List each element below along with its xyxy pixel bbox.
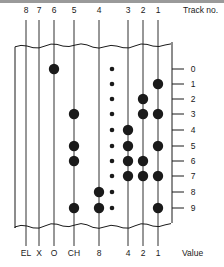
track-number-5: 5 [72,5,77,15]
row-label-9: 9 [191,203,196,213]
track-number-3: 3 [126,5,131,15]
sprocket-hole [110,190,115,195]
track-value-4: 8 [97,248,102,258]
punch-hole-row5-track1 [153,141,163,151]
track-value-7: X [36,248,42,258]
tape-top-edge [15,44,171,48]
row-label-2: 2 [191,94,196,104]
sprocket-hole [110,128,115,133]
row-label-3: 3 [191,109,196,119]
track-number-4: 4 [97,5,102,15]
track-number-2: 2 [141,5,146,15]
track-number-8: 8 [24,5,29,15]
track-no-label: Track no. [183,5,218,15]
punch-hole-row9-track1 [153,203,163,213]
track-value-1: 1 [156,248,161,258]
row-label-4: 4 [191,125,196,135]
punch-hole-row3-track5 [69,109,79,119]
track-value-6: O [51,248,58,258]
tape-bottom-edge [15,224,171,229]
punch-hole-row6-track2 [138,156,148,166]
track-value-8: EL [21,248,32,258]
row-label-6: 6 [191,156,196,166]
sprocket-hole [110,97,115,102]
punch-hole-row8-track4 [94,187,104,197]
sprocket-hole [110,174,115,179]
row-label-5: 5 [191,141,196,151]
sprocket-hole [110,159,115,164]
punch-hole-row5-track5 [69,141,79,151]
punch-hole-row6-track3 [123,156,133,166]
punch-hole-row7-track3 [123,171,133,181]
punch-hole-row5-track3 [123,141,133,151]
sprocket-hole [110,67,115,72]
punch-hole-row7-track1 [153,171,163,181]
punch-hole-row0-track6 [49,64,59,74]
punch-hole-row3-track1 [153,109,163,119]
punch-hole-row2-track2 [138,94,148,104]
sprocket-hole [110,144,115,149]
punch-hole-row3-track2 [138,109,148,119]
row-scale [172,69,184,208]
sprocket-hole [110,206,115,211]
sprocket-hole [110,112,115,117]
track-value-5: CH [68,248,80,258]
row-label-0: 0 [191,64,196,74]
sprocket-hole [110,82,115,87]
labels: Track no. Value 8EL7X6O5CH48342211012345… [21,5,218,258]
track-value-3: 4 [126,248,131,258]
row-label-7: 7 [191,171,196,181]
row-label-8: 8 [191,187,196,197]
punch-hole-row1-track1 [153,79,163,89]
punch-hole-row4-track3 [123,125,133,135]
value-label: Value [182,248,203,258]
track-number-1: 1 [156,5,161,15]
track-lines [26,20,158,246]
track-number-6: 6 [52,5,57,15]
track-value-2: 2 [141,248,146,258]
punch-holes [49,64,163,213]
track-number-7: 7 [37,5,42,15]
punch-hole-row7-track2 [138,171,148,181]
row-label-1: 1 [191,79,196,89]
punch-hole-row9-track5 [69,203,79,213]
punch-hole-row9-track4 [94,203,104,213]
paper-tape-diagram: Track no. Value 8EL7X6O5CH48342211012345… [0,0,224,267]
punch-hole-row6-track5 [69,156,79,166]
